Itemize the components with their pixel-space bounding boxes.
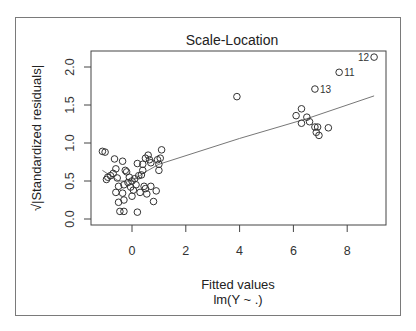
data-point <box>312 86 319 93</box>
data-point <box>121 197 128 204</box>
data-points <box>99 54 377 216</box>
x-axis-sublabel: lm(Y ~ .) <box>213 292 262 307</box>
x-tick-label: 6 <box>290 244 297 258</box>
point-label: 13 <box>320 84 332 95</box>
y-tick-label: 1.0 <box>63 134 77 151</box>
y-tick-label: 0.0 <box>63 210 77 227</box>
data-point <box>298 106 305 113</box>
y-tick-label: 0.5 <box>63 172 77 189</box>
data-point <box>119 190 126 197</box>
plot-area <box>91 51 386 225</box>
x-axis: 02468 <box>129 225 351 258</box>
x-axis-label: Fitted values <box>201 277 275 292</box>
x-tick-label: 8 <box>344 244 351 258</box>
data-point <box>134 209 141 216</box>
data-point <box>293 112 300 119</box>
x-tick-label: 2 <box>182 244 189 258</box>
data-point <box>153 188 160 195</box>
y-axis: 0.00.51.01.52.0 <box>63 58 91 227</box>
data-point <box>150 198 157 205</box>
data-point <box>119 158 126 165</box>
data-point <box>158 147 165 154</box>
data-point <box>298 120 305 127</box>
data-point <box>133 182 140 189</box>
data-point <box>111 156 118 163</box>
x-tick-label: 0 <box>129 244 136 258</box>
data-point <box>371 54 378 61</box>
y-tick-label: 2.0 <box>63 58 77 75</box>
y-tick-label: 1.5 <box>63 96 77 113</box>
x-tick-label: 4 <box>236 244 243 258</box>
data-point <box>129 193 136 200</box>
point-label: 11 <box>344 67 355 78</box>
smooth-line <box>102 96 374 181</box>
data-point <box>336 69 343 76</box>
data-point <box>148 183 155 190</box>
point-labels: 121113 <box>320 52 370 95</box>
data-point <box>234 93 241 100</box>
data-point <box>121 208 128 215</box>
y-axis-label: √|Standardized residuals| <box>29 65 44 211</box>
scale-location-chart: Scale-Location 02468 0.00.51.01.52.0 121… <box>0 0 416 331</box>
chart-title: Scale-Location <box>186 32 279 48</box>
point-label: 12 <box>358 52 370 63</box>
data-point <box>325 125 332 132</box>
